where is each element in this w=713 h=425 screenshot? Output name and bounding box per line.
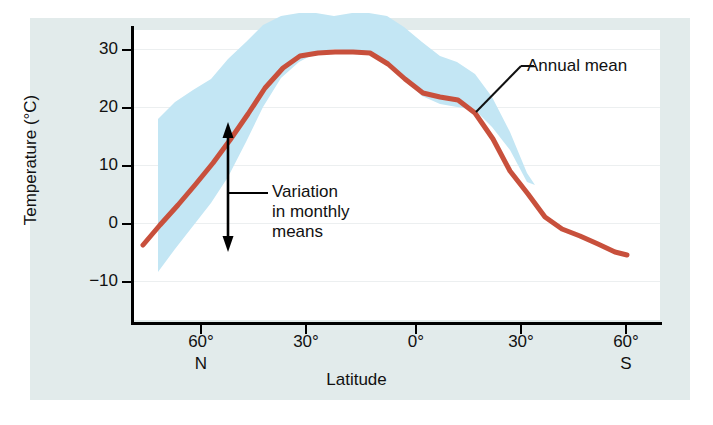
x-label-30n: 30° <box>271 332 341 352</box>
x-axis-title: Latitude <box>0 370 713 390</box>
y-label-10: 10 <box>78 155 118 175</box>
x-label-60s: 60° <box>591 332 661 352</box>
y-tick-30 <box>122 49 131 51</box>
annotation-variation-line2: in monthly <box>272 202 412 222</box>
y-axis-title: Temperature (°C) <box>21 65 41 255</box>
x-label-30s: 30° <box>486 332 556 352</box>
y-tick-0 <box>122 223 131 225</box>
y-tick-neg10 <box>122 281 131 283</box>
y-label-20: 20 <box>78 97 118 117</box>
y-label-neg10: −10 <box>78 271 118 291</box>
annotation-variation-monthly-means: Variation in monthly means <box>272 182 412 242</box>
gridline-20 <box>133 107 660 108</box>
annotation-annual-mean: Annual mean <box>527 56 687 76</box>
y-label-0: 0 <box>78 213 118 233</box>
annotation-variation-line1: Variation <box>272 182 412 202</box>
gridline-10 <box>133 165 660 166</box>
y-tick-10 <box>122 165 131 167</box>
y-label-30: 30 <box>78 39 118 59</box>
gridline-neg10 <box>133 281 660 282</box>
x-label-0: 0° <box>381 332 451 352</box>
y-tick-20 <box>122 107 131 109</box>
x-label-60n: 60° <box>166 332 236 352</box>
x-axis-line <box>131 322 662 325</box>
gridline-30 <box>133 49 660 50</box>
annotation-variation-line3: means <box>272 222 412 242</box>
y-axis-line <box>131 26 134 324</box>
figure-container: 30 20 10 0 −10 60° N 30° 0° 30° 60° S La… <box>0 0 713 425</box>
